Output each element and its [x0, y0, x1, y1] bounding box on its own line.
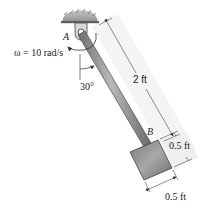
label-omega: ω = 10 rad/s [14, 47, 63, 58]
ceiling-support [61, 9, 99, 23]
label-rod-length: 2 ft [133, 74, 147, 85]
label-pin-a: A [62, 31, 70, 42]
pendulum-diagram: A ω = 10 rad/s 30° 2 ft B 0.5 ft 0.5 ft [0, 0, 206, 212]
label-joint-b: B [147, 126, 153, 137]
label-angle: 30° [80, 81, 94, 92]
label-block-width: 0.5 ft [165, 191, 186, 202]
label-block-height: 0.5 ft [169, 140, 190, 151]
